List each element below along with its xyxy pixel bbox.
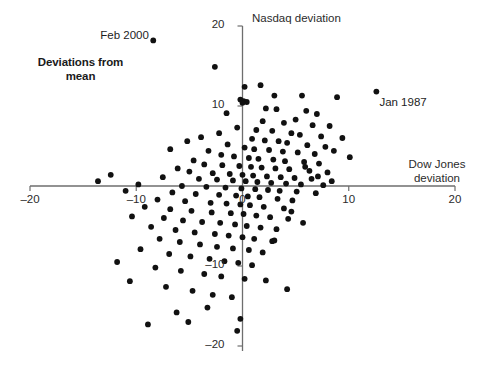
scatter-plot-figure: Deviations from mean Nasdaq deviation Do… <box>0 0 478 374</box>
data-point <box>329 178 335 184</box>
data-point <box>267 214 273 220</box>
data-point <box>234 125 240 131</box>
data-point <box>155 197 161 203</box>
data-point <box>250 173 256 179</box>
data-point <box>302 164 308 170</box>
data-point <box>216 192 222 198</box>
data-point <box>271 93 277 99</box>
data-point <box>278 174 284 180</box>
data-point <box>234 328 240 334</box>
data-point <box>197 242 203 248</box>
data-point <box>252 186 258 192</box>
data-point <box>251 146 257 152</box>
data-point <box>282 158 288 164</box>
page-title: Deviations from mean <box>18 55 143 84</box>
data-point <box>229 294 235 300</box>
data-point <box>299 93 305 99</box>
data-point <box>201 162 207 168</box>
data-point <box>303 108 309 114</box>
data-point <box>249 262 255 268</box>
data-point <box>270 157 276 163</box>
x-axis-label-line-1: Dow Jones deviation <box>409 158 466 184</box>
data-point <box>259 165 265 171</box>
data-point <box>212 231 218 237</box>
data-point <box>224 110 230 116</box>
x-axis-label: Dow Jones deviation <box>400 158 474 186</box>
data-point <box>322 144 328 150</box>
data-point <box>269 128 275 134</box>
data-point <box>167 146 173 152</box>
data-point <box>243 178 249 184</box>
data-point <box>298 182 304 188</box>
data-point <box>293 117 299 123</box>
data-point <box>251 236 257 242</box>
data-point <box>246 155 252 161</box>
data-point <box>169 190 175 196</box>
data-point <box>185 319 191 325</box>
data-point <box>288 209 294 215</box>
data-point <box>339 135 345 141</box>
data-point <box>315 174 321 180</box>
data-point <box>277 188 283 194</box>
y-tick-label--10: –10 <box>191 258 225 270</box>
data-point <box>231 154 237 160</box>
data-point <box>199 219 205 225</box>
point-annotation: Jan 1987 <box>379 96 426 108</box>
data-point <box>241 211 247 217</box>
point-annotation: Feb 2000 <box>100 29 149 41</box>
data-point <box>290 198 296 204</box>
data-point <box>196 176 202 182</box>
data-point <box>191 158 197 164</box>
data-point <box>114 259 120 265</box>
data-point <box>318 134 324 140</box>
data-point <box>301 159 307 165</box>
data-point <box>219 162 225 168</box>
data-point <box>230 178 236 184</box>
data-point <box>190 288 196 294</box>
data-point <box>145 322 151 328</box>
data-point <box>249 136 255 142</box>
data-point <box>297 132 303 138</box>
data-point <box>260 250 266 256</box>
data-point <box>254 179 260 185</box>
data-point <box>258 225 264 231</box>
data-point <box>288 130 294 136</box>
data-point <box>284 286 290 292</box>
data-point <box>166 251 172 257</box>
data-point <box>284 140 290 146</box>
data-point <box>240 172 246 178</box>
data-point <box>186 169 192 175</box>
title-line-2: mean <box>66 70 96 82</box>
data-point <box>150 38 156 44</box>
title-line-1: Deviations from <box>38 56 123 68</box>
y-axis-label: Nasdaq deviation <box>252 12 341 26</box>
data-point <box>274 106 280 112</box>
data-point <box>217 220 223 226</box>
data-point <box>174 310 180 316</box>
data-point <box>294 189 300 195</box>
data-point <box>175 166 181 172</box>
data-point <box>275 196 281 202</box>
data-point <box>223 185 229 191</box>
data-point <box>262 138 268 144</box>
data-point <box>184 138 190 144</box>
data-point <box>237 316 243 322</box>
y-tick-label-10: 10 <box>191 98 225 110</box>
data-point <box>173 227 179 233</box>
data-point <box>309 176 315 182</box>
data-point <box>292 175 298 181</box>
data-point <box>206 148 212 154</box>
data-point <box>320 182 326 188</box>
data-point <box>218 274 224 280</box>
data-point <box>225 142 231 148</box>
data-point <box>310 122 316 128</box>
data-point <box>230 246 236 252</box>
data-point <box>129 214 135 220</box>
data-point <box>334 94 340 100</box>
data-point <box>161 215 167 221</box>
data-point <box>235 260 241 266</box>
data-point <box>138 246 144 252</box>
data-point <box>218 152 224 158</box>
data-point <box>209 210 215 216</box>
data-point <box>264 174 270 180</box>
